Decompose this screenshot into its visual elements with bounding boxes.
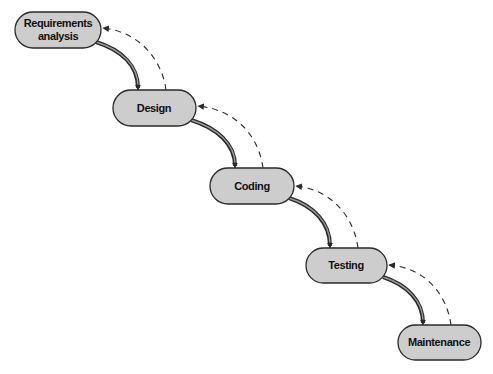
- node-label-line1: Requirements: [24, 17, 93, 29]
- node-label: Coding: [234, 180, 269, 192]
- feedback-arrow-coding-to-design: [198, 106, 263, 168]
- node-label-line2: analysis: [38, 30, 79, 42]
- feedback-arrow-design-to-requirements: [103, 28, 166, 90]
- forward-arrow-coding-to-testing: [289, 198, 330, 248]
- forward-arrow-design-to-coding: [191, 120, 235, 168]
- node-coding: Coding: [210, 168, 294, 204]
- node-label: Testing: [328, 259, 364, 271]
- waterfall-diagram: Requirements analysis Design Coding Test…: [0, 0, 493, 374]
- feedback-arrow-testing-to-coding: [296, 186, 358, 248]
- node-maintenance: Maintenance: [398, 325, 481, 360]
- feedback-arrow-maintenance-to-testing: [389, 265, 451, 325]
- node-label: Design: [137, 102, 172, 114]
- node-design: Design: [113, 90, 196, 126]
- forward-arrow-requirements-to-design: [96, 42, 138, 90]
- node-testing: Testing: [306, 248, 387, 283]
- node-requirements-analysis: Requirements analysis: [15, 12, 101, 48]
- forward-arrow-testing-to-maintenance: [383, 277, 423, 325]
- node-label: Maintenance: [408, 336, 471, 348]
